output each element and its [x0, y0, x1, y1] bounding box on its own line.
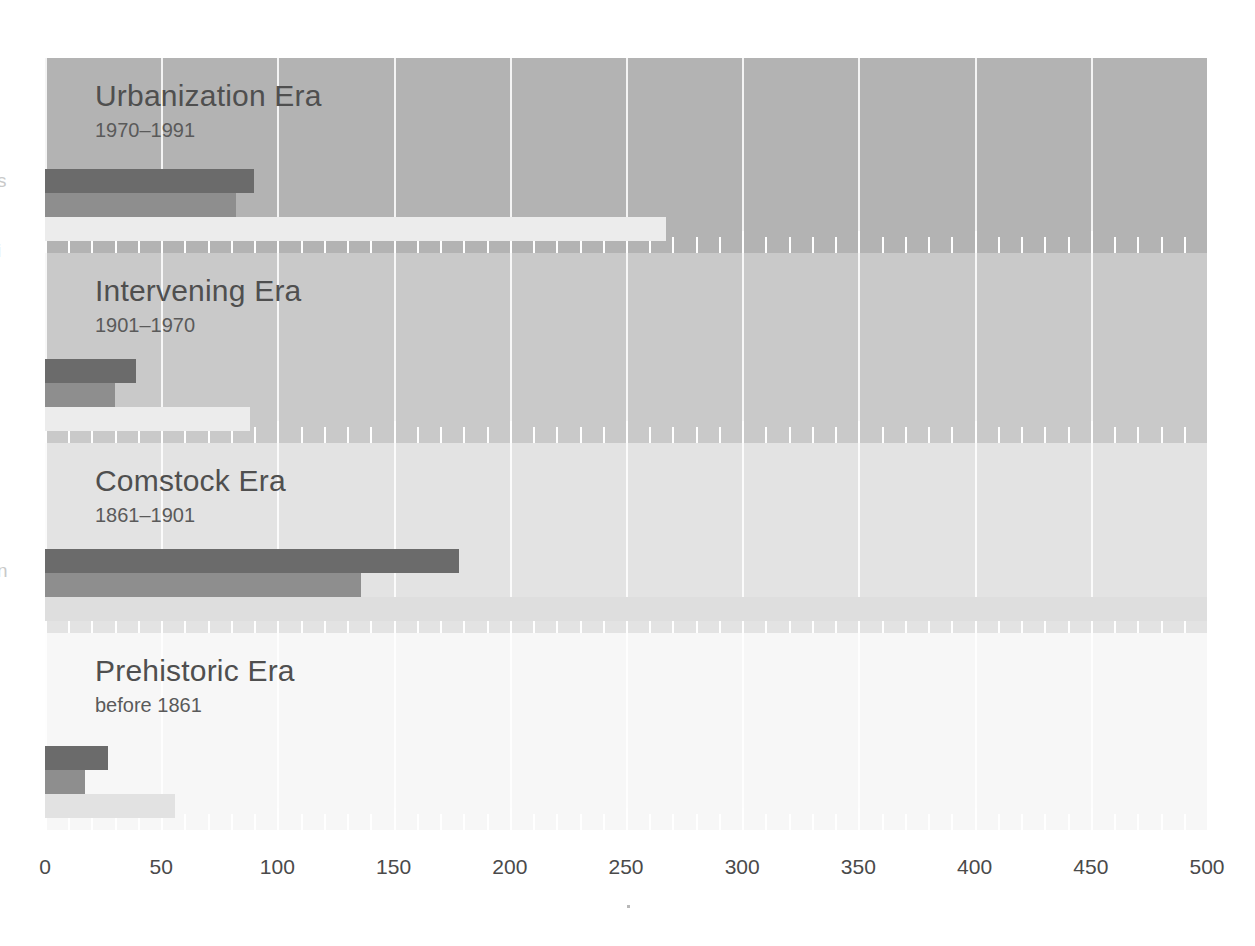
bar-group	[45, 549, 1207, 621]
chart-canvas: Urbanization Era1970–1991Intervening Era…	[0, 0, 1255, 946]
x-axis-tick-label: 500	[1189, 855, 1224, 879]
plot-area: Urbanization Era1970–1991Intervening Era…	[45, 58, 1207, 830]
era-date-range: 1970–1991	[95, 119, 322, 142]
clipped-text-fragment: i	[0, 240, 1, 262]
bar-group	[45, 359, 1207, 431]
bar-prehistoric-light	[45, 794, 175, 818]
era-label-group: Urbanization Era1970–1991	[95, 80, 322, 142]
era-band-urbanization: Urbanization Era1970–1991	[45, 58, 1207, 253]
era-date-range: before 1861	[95, 694, 295, 717]
era-title: Prehistoric Era	[95, 655, 295, 687]
bar-prehistoric-medium	[45, 770, 85, 794]
era-title: Urbanization Era	[95, 80, 322, 112]
bar-prehistoric-dark	[45, 746, 108, 770]
bar-urbanization-light	[45, 217, 666, 241]
clipped-text-fragment: s	[0, 170, 7, 192]
bar-group	[45, 169, 1207, 241]
x-axis-tick-label: 350	[841, 855, 876, 879]
era-date-range: 1861–1901	[95, 504, 286, 527]
x-axis-tick-label: 300	[725, 855, 760, 879]
era-label-group: Intervening Era1901–1970	[95, 275, 301, 337]
bar-urbanization-medium	[45, 193, 236, 217]
clipped-text-fragment: n	[0, 560, 8, 582]
bar-group	[45, 746, 1207, 818]
x-axis-tick-label: 100	[260, 855, 295, 879]
bar-comstock-medium	[45, 573, 361, 597]
era-band-comstock: Comstock Era1861–1901	[45, 443, 1207, 633]
bar-intervening-light	[45, 407, 250, 431]
x-axis-tick-label: 400	[957, 855, 992, 879]
bar-comstock-dark	[45, 549, 459, 573]
x-axis-tick-label: 50	[150, 855, 173, 879]
footer-dot-mark	[627, 905, 630, 908]
era-title: Intervening Era	[95, 275, 301, 307]
era-label-group: Prehistoric Erabefore 1861	[95, 655, 295, 717]
x-axis-tick-label: 450	[1073, 855, 1108, 879]
bar-urbanization-dark	[45, 169, 254, 193]
x-axis-tick-label: 200	[492, 855, 527, 879]
bar-comstock-light	[45, 597, 1207, 621]
era-date-range: 1901–1970	[95, 314, 301, 337]
era-band-intervening: Intervening Era1901–1970	[45, 253, 1207, 443]
era-label-group: Comstock Era1861–1901	[95, 465, 286, 527]
x-axis-tick-label: 0	[39, 855, 51, 879]
era-band-prehistoric: Prehistoric Erabefore 1861	[45, 633, 1207, 830]
x-axis: 050100150200250300350400450500	[45, 855, 1207, 885]
era-title: Comstock Era	[95, 465, 286, 497]
x-axis-tick-label: 150	[376, 855, 411, 879]
bar-intervening-medium	[45, 383, 115, 407]
x-axis-tick-label: 250	[608, 855, 643, 879]
bar-intervening-dark	[45, 359, 136, 383]
